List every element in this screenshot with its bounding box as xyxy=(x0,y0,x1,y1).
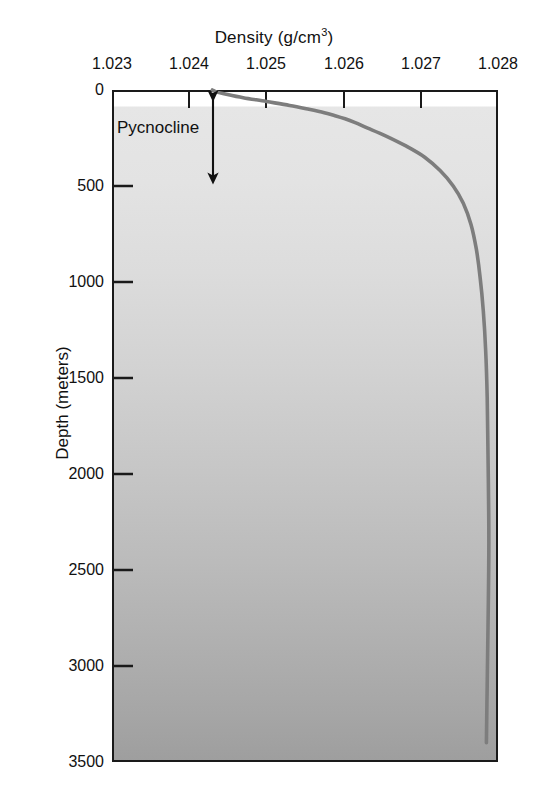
y-tick-label: 500 xyxy=(44,177,104,195)
chart-title-main: Density (g/cm xyxy=(215,28,322,47)
y-tick-label: 2000 xyxy=(34,465,104,483)
y-tick-label: 3500 xyxy=(34,753,104,771)
y-tick-label: 0 xyxy=(66,81,104,99)
y-axis-title: Depth (meters) xyxy=(53,346,73,459)
y-tick-label: 1000 xyxy=(34,273,104,291)
density-depth-chart: Density (g/cm3) 1.023 1.024 1.025 1.026 … xyxy=(0,0,548,806)
x-tick-label: 1.024 xyxy=(169,55,209,73)
x-tick-label: 1.026 xyxy=(324,55,364,73)
plot-background-gradient xyxy=(114,92,496,760)
x-tick-label: 1.028 xyxy=(478,55,518,73)
x-tick-label: 1.023 xyxy=(92,55,132,73)
y-tick-label: 2500 xyxy=(34,561,104,579)
x-tick-label: 1.027 xyxy=(401,55,441,73)
plot-area xyxy=(112,90,498,762)
x-tick-label: 1.025 xyxy=(246,55,286,73)
chart-title-close-paren: ) xyxy=(327,28,333,47)
pycnocline-annotation-label: Pycnocline xyxy=(117,118,199,138)
y-tick-label: 3000 xyxy=(34,657,104,675)
chart-title: Density (g/cm3) xyxy=(0,28,548,48)
